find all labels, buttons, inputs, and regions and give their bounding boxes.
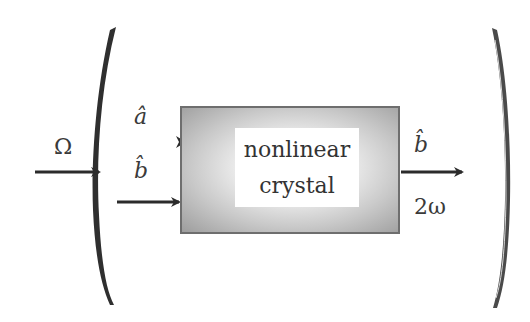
- mode-b-input-label: b̂: [134, 160, 148, 182]
- sfg-cavity-diagram: nonlinear crystal Ω â b̂ b̂ 2ω: [0, 0, 530, 322]
- crystal-label: nonlinear crystal: [235, 128, 359, 207]
- crystal-label-line2: crystal: [259, 168, 335, 204]
- right-mirror: [492, 28, 510, 308]
- output-frequency-label: 2ω: [414, 196, 446, 218]
- pump-frequency-label: Ω: [54, 136, 72, 158]
- mode-a-label: â: [134, 106, 147, 128]
- crystal-label-line1: nonlinear: [244, 132, 350, 168]
- mode-b-output-label: b̂: [414, 134, 428, 156]
- nonlinear-crystal-box: nonlinear crystal: [180, 106, 400, 234]
- left-mirror: [93, 27, 116, 305]
